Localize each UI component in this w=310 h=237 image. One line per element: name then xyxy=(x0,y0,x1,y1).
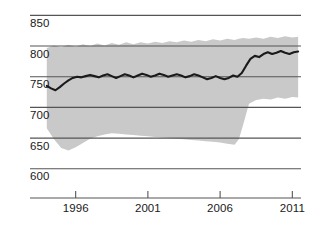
uncertainty-band xyxy=(47,36,298,150)
y-axis-tick-label: 800 xyxy=(30,49,50,61)
x-axis-tick-label: 2006 xyxy=(207,203,233,215)
x-axis-ticks xyxy=(76,191,293,198)
y-axis-tick-label: 650 xyxy=(30,141,50,153)
y-axis-tick-label: 700 xyxy=(30,110,50,122)
x-axis-tick-label: 1996 xyxy=(63,203,89,215)
chart-container: 600650700750800850 1996200120062011 xyxy=(0,0,310,237)
y-axis-tick-label: 850 xyxy=(30,18,50,30)
x-axis-tick-label: 2001 xyxy=(135,203,161,215)
y-axis-tick-label: 750 xyxy=(30,79,50,91)
y-axis-tick-label: 600 xyxy=(30,171,50,183)
x-axis-tick-label: 2011 xyxy=(280,203,305,215)
